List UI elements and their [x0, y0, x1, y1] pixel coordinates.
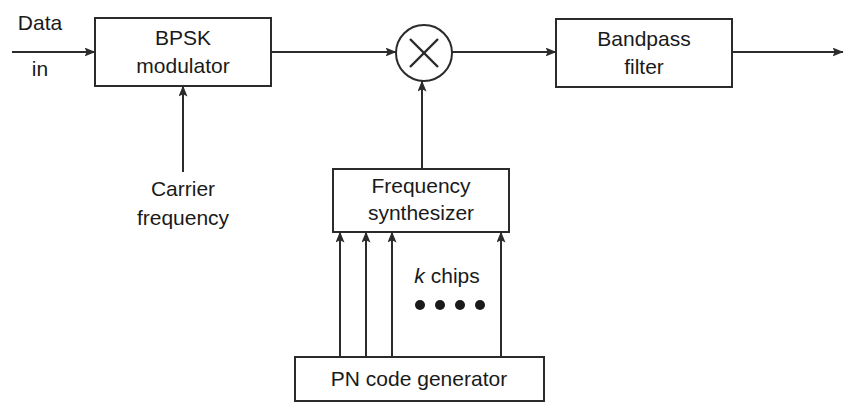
block-bpsk-modulator-line1: BPSK	[155, 26, 211, 49]
label-carrier-bottom: frequency	[137, 206, 230, 229]
ellipsis-dot-3	[455, 300, 465, 310]
label-carrier-top: Carrier	[151, 177, 215, 200]
block-frequency-synthesizer-line2: synthesizer	[368, 201, 474, 224]
block-bandpass-filter-line2: filter	[624, 55, 664, 78]
ellipsis-dot-2	[435, 300, 445, 310]
label-k-chips-word: chips	[431, 264, 480, 287]
block-frequency-synthesizer-line1: Frequency	[371, 174, 471, 197]
label-k-chips: kchips	[414, 264, 480, 287]
ellipsis-dot-1	[415, 300, 425, 310]
label-k-chips-variable: k	[414, 264, 426, 287]
block-pn-code-generator-label: PN code generator	[331, 367, 507, 390]
block-diagram-canvas: BPSK modulator Bandpass filter Frequency…	[0, 0, 850, 414]
block-bpsk-modulator-line2: modulator	[136, 54, 229, 77]
label-data-in-top: Data	[18, 11, 63, 34]
diagram-svg: BPSK modulator Bandpass filter Frequency…	[0, 0, 850, 414]
label-data-in-bottom: in	[32, 57, 48, 80]
ellipsis-dot-4	[475, 300, 485, 310]
block-bandpass-filter-line1: Bandpass	[597, 27, 690, 50]
